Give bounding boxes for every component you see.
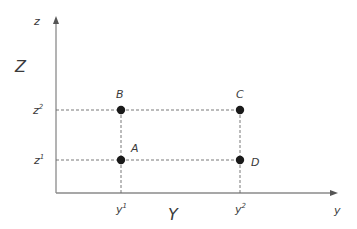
point-b-label: B <box>116 88 124 101</box>
tick-z2: z2 <box>32 103 44 117</box>
point-d <box>236 156 244 164</box>
point-a <box>117 156 125 164</box>
tick-y2: y2 <box>234 202 247 216</box>
point-a-label: A <box>130 142 139 155</box>
point-c-label: C <box>236 88 244 101</box>
vertical-axis-title: Z <box>14 57 27 76</box>
tick-z1: z1 <box>33 153 44 167</box>
point-c <box>236 106 244 114</box>
point-b <box>117 106 125 114</box>
horizontal-axis-arrow-icon <box>330 190 338 196</box>
coordinate-diagram: B C A D z Z y Y z2 z1 y1 y2 <box>0 0 357 229</box>
point-d-label: D <box>251 156 259 169</box>
tick-y1: y1 <box>115 202 127 216</box>
horizontal-axis-end: y <box>333 204 341 217</box>
horizontal-axis-title: Y <box>168 205 179 224</box>
vertical-axis-label: z <box>33 15 40 28</box>
vertical-axis-arrow-icon <box>53 16 59 24</box>
